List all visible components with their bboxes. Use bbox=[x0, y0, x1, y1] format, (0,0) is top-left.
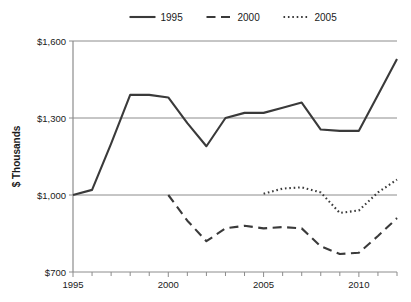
x-tick-label-2010: 2010 bbox=[348, 279, 369, 290]
line-chart: $700$1,000$1,300$1,600$ Thousands1995200… bbox=[0, 0, 411, 302]
y-axis-title: $ Thousands bbox=[11, 125, 22, 187]
series-line-1995 bbox=[73, 59, 397, 195]
x-tick-label-2000: 2000 bbox=[158, 279, 179, 290]
chart-canvas: $700$1,000$1,300$1,600$ Thousands1995200… bbox=[0, 0, 411, 302]
x-tick-label-2005: 2005 bbox=[253, 279, 274, 290]
y-tick-label-700: $700 bbox=[45, 267, 66, 278]
legend-label-2000[interactable]: 2000 bbox=[238, 12, 261, 23]
y-tick-label-1000: $1,000 bbox=[37, 190, 66, 201]
y-tick-label-1300: $1,300 bbox=[37, 113, 66, 124]
legend-label-1995[interactable]: 1995 bbox=[161, 12, 184, 23]
x-tick-label-1995: 1995 bbox=[62, 279, 83, 290]
series-line-2005 bbox=[264, 180, 397, 213]
y-tick-label-1600: $1,600 bbox=[37, 36, 66, 47]
legend-label-2005[interactable]: 2005 bbox=[315, 12, 338, 23]
series-line-2000 bbox=[168, 195, 397, 254]
